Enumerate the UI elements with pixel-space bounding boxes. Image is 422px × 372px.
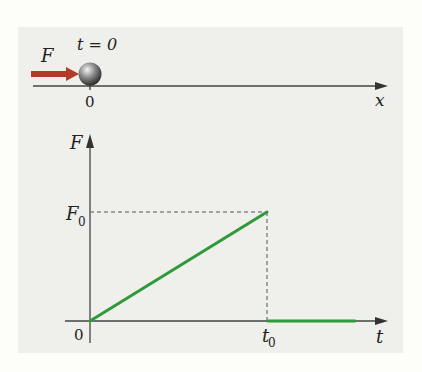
origin-tick-label: 0 [74, 326, 84, 344]
t-axis-arrowhead [375, 317, 388, 325]
y-axis-label: F [69, 132, 84, 153]
time-label: t = 0 [77, 35, 117, 54]
top-diagram: x 0 t = 0 F [31, 35, 388, 111]
force-time-chart: F t 0 F 0 t 0 [65, 132, 388, 350]
x-axis-arrowhead [375, 82, 388, 90]
svg-text:0: 0 [78, 215, 86, 229]
force-arrow-icon [31, 67, 79, 81]
origin-label: 0 [85, 93, 95, 111]
force-label: F [40, 45, 55, 66]
figure: x 0 t = 0 F F t 0 F 0 t 0 [0, 0, 422, 372]
t0-tick-label: t 0 [262, 325, 276, 350]
ball-icon [79, 63, 102, 86]
x-axis-label: x [375, 90, 385, 110]
t-axis-label: t [376, 326, 384, 347]
ramp-series-line [90, 212, 267, 321]
f0-tick-label: F 0 [65, 203, 86, 229]
y-axis-arrowhead [86, 134, 94, 148]
svg-text:0: 0 [268, 336, 276, 350]
